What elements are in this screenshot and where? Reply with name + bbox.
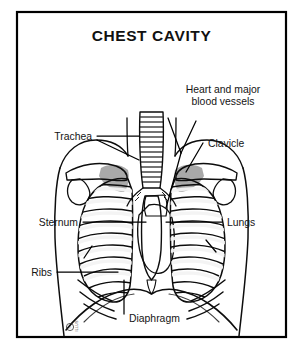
page-title: CHEST CAVITY: [92, 27, 212, 44]
label-heart-line2: blood vessels: [192, 96, 255, 107]
label-heart-line1: Heart and major: [186, 84, 261, 95]
label-sternum: Sternum: [39, 217, 78, 228]
label-lungs: Lungs: [227, 217, 255, 228]
anatomy-illustration: CHEST CAVITY: [0, 0, 303, 349]
chest-cavity-figure: CHEST CAVITY: [0, 0, 303, 349]
label-ribs: Ribs: [31, 267, 52, 278]
figure-border: [17, 12, 286, 337]
signature-mark: ©: [69, 326, 72, 330]
signature-text: ILLUS: [75, 320, 79, 331]
label-diaphragm: Diaphragm: [129, 313, 180, 324]
label-clavicle: Clavicle: [208, 138, 245, 149]
label-trachea: Trachea: [54, 131, 92, 142]
